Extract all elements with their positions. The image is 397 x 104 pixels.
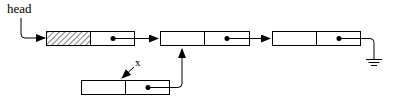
x-pointer-arrow	[122, 67, 134, 78]
node-1	[47, 32, 159, 46]
node-2-data-cell	[161, 32, 205, 46]
node-x	[82, 49, 183, 95]
node-3-data-cell	[273, 32, 317, 46]
node-1-data-cell	[47, 32, 91, 46]
node-x-data-cell	[82, 81, 126, 95]
head-label: head	[7, 1, 32, 16]
node-3	[273, 32, 383, 66]
x-pointer-label: x	[135, 56, 141, 68]
head-pointer-arrow	[21, 18, 45, 38]
node-2	[161, 32, 271, 46]
linked-list-diagram: head x	[0, 0, 397, 104]
ground-null-icon	[366, 60, 382, 66]
